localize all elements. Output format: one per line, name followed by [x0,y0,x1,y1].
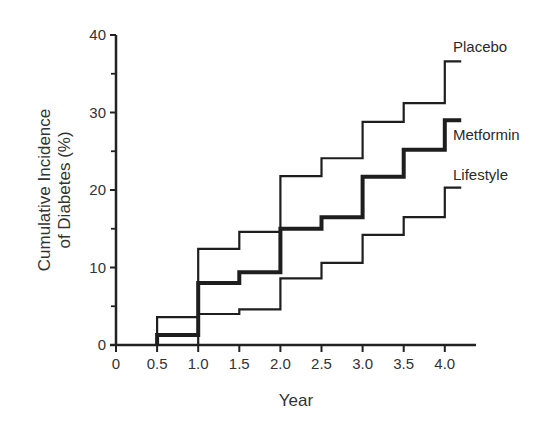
y-axis-title-line-2: of Diabetes (%) [55,131,74,248]
x-tick-label: 2.0 [270,355,291,372]
y-tick-label: 40 [89,26,106,43]
axes: 01020304000.51.01.52.02.53.03.54.0 [89,26,476,372]
x-axis-title: Year [279,391,314,410]
y-tick-label: 0 [98,336,106,353]
series-line-metformin [157,120,461,345]
x-tick-label: 1.0 [188,355,209,372]
x-tick-label: 2.5 [311,355,332,372]
y-tick-label: 30 [89,104,106,121]
x-tick-label: 4.0 [434,355,455,372]
y-axis-title: Cumulative Incidence of Diabetes (%) [35,109,74,272]
series-label-metformin: Metformin [453,126,520,143]
x-tick-label: 1.5 [229,355,250,372]
x-tick-label: 0 [112,355,120,372]
x-tick-label: 0.5 [147,355,168,372]
cumulative-incidence-chart: Cumulative Incidence of Diabetes (%) 010… [0,0,553,430]
series-label-lifestyle: Lifestyle [453,166,508,183]
x-tick-label: 3.0 [352,355,373,372]
series-label-placebo: Placebo [453,38,507,55]
series-line-lifestyle [157,188,461,345]
series-labels: PlaceboMetforminLifestyle [453,38,520,183]
y-axis-title-line-1: Cumulative Incidence [35,109,54,272]
y-tick-label: 10 [89,259,106,276]
x-tick-label: 3.5 [393,355,414,372]
y-tick-label: 20 [89,181,106,198]
series-lines [157,61,461,345]
series-line-placebo [157,61,461,345]
